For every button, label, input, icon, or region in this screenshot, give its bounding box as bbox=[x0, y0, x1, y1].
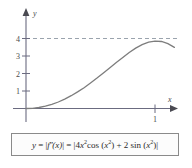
formula-lhs-var: y bbox=[32, 140, 36, 150]
formula-abs-close-1: | bbox=[62, 140, 64, 150]
formula-text: y = |f''(x)| = |4x2cos (x2) + 2 sin (x2)… bbox=[32, 140, 158, 150]
formula-cos-paren-close: ) bbox=[111, 140, 114, 150]
x-axis-label: x bbox=[167, 95, 172, 104]
x-axis-arrow-icon bbox=[170, 105, 178, 112]
y-axis-arrow-icon bbox=[23, 8, 30, 16]
formula-sin-coeff: 2 bbox=[124, 140, 129, 150]
y-tick-label-4: 4 bbox=[16, 35, 20, 44]
formula-equals-2: = bbox=[66, 140, 71, 150]
formula-equals-1: = bbox=[38, 140, 43, 150]
x-tick-label-1: 1 bbox=[153, 115, 157, 124]
formula-cos: cos bbox=[87, 140, 99, 150]
y-tick-label-1: 1 bbox=[16, 87, 20, 96]
y-axis-label: y bbox=[32, 9, 37, 18]
curve-f-double-prime bbox=[26, 41, 174, 108]
formula-arg: (x) bbox=[52, 140, 62, 150]
formula-caption-box: y = |f''(x)| = |4x2cos (x2) + 2 sin (x2)… bbox=[11, 133, 179, 156]
y-tick-label-3: 3 bbox=[16, 52, 20, 61]
formula-plus: + bbox=[116, 140, 121, 150]
y-tick-label-2: 2 bbox=[16, 70, 20, 79]
graph-plot: 4 3 2 1 1 y x bbox=[0, 0, 192, 132]
formula-abs-close-2: | bbox=[156, 140, 158, 150]
formula-sin: sin bbox=[130, 140, 141, 150]
